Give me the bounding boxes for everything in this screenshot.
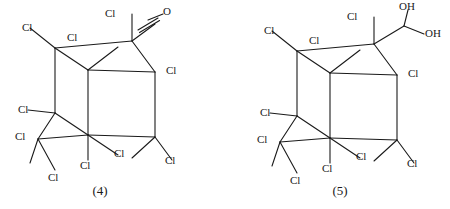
structure-5-bond	[330, 138, 397, 140]
cl-label-top: Cl	[347, 11, 357, 22]
cl-label-bottom-right: Cl	[165, 155, 175, 166]
structure-4-double-bond	[140, 21, 160, 33]
structure-5-bond	[270, 113, 297, 116]
cl-label-lower-left: Cl	[257, 134, 267, 145]
cl-label-bottom-inner: Cl	[114, 148, 124, 159]
cl-label-top-inner-left: Cl	[67, 32, 77, 43]
structure-5-bond	[280, 138, 330, 142]
structure-5-bond	[374, 140, 397, 161]
cl-label-bottom-left: Cl	[290, 175, 300, 186]
structure-5-bond	[297, 116, 330, 138]
structure-5-caption: (5)	[310, 183, 370, 199]
structure-4-bond	[30, 139, 38, 163]
cl-label-right: Cl	[408, 68, 418, 79]
cl-label-upper-left: Cl	[22, 22, 32, 33]
structure-4-bond	[88, 70, 155, 72]
structure-4-bond	[38, 139, 55, 170]
structure-4-bond	[30, 28, 55, 48]
structure-4-skeleton	[28, 14, 172, 170]
structure-5-bond	[330, 50, 360, 73]
cl-label-upper-left: Cl	[264, 25, 274, 36]
structure-5-bond	[297, 51, 330, 73]
structure-5-bond	[272, 142, 280, 166]
cl-label-top-inner-left: Cl	[309, 35, 319, 46]
cl-label-mid-left: Cl	[260, 107, 270, 118]
structure-4-bond	[88, 135, 155, 137]
cl-label-bottom-center: Cl	[80, 160, 90, 171]
cl-label-right: Cl	[166, 65, 176, 76]
structure-4-bond	[88, 47, 118, 70]
structure-4-bond	[132, 137, 155, 158]
structure-4-bond	[28, 110, 55, 113]
cl-label-bottom-right: Cl	[407, 158, 417, 169]
structure-5-bond	[404, 26, 424, 34]
structure-5-bond	[272, 31, 297, 51]
structure-4-bond	[38, 135, 88, 139]
cl-label-bottom-left: Cl	[48, 172, 58, 183]
structure-4-bond	[38, 113, 55, 139]
structure-5-bond	[374, 44, 397, 75]
structure-5-bond	[330, 73, 397, 75]
oh-label-upper: OH	[399, 1, 415, 12]
structure-4-caption: (4)	[70, 183, 130, 199]
structure-5-bond	[280, 142, 297, 173]
cl-label-bottom-inner: Cl	[356, 151, 366, 162]
structure-4-bond	[55, 113, 88, 135]
structure-5-skeleton	[270, 10, 424, 173]
structure-4-bond	[55, 48, 88, 70]
cl-label-mid-left: Cl	[18, 104, 28, 115]
oh-label-lower: OH	[425, 28, 441, 39]
cl-label-bottom-center: Cl	[322, 163, 332, 174]
structure-4-bond	[132, 41, 155, 72]
cl-label-top: Cl	[105, 8, 115, 19]
o-label-carbonyl: O	[163, 6, 171, 17]
structure-5-bond	[374, 26, 404, 44]
structure-5-bond	[404, 10, 408, 26]
structure-5-bond	[280, 116, 297, 142]
cl-label-lower-left: Cl	[15, 131, 25, 142]
